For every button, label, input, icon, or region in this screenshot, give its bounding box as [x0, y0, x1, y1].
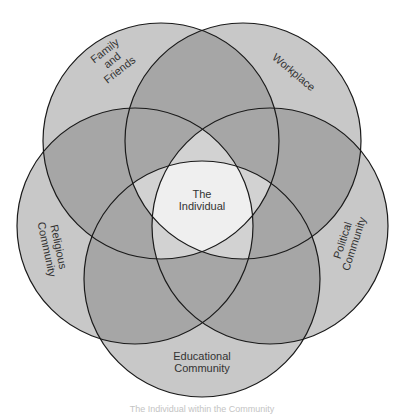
- label-center-line1: The: [162, 188, 242, 200]
- label-center-line2: Individual: [162, 200, 242, 212]
- figure-caption: The Individual within the Community: [0, 404, 404, 414]
- label-educational-line1: Educational: [162, 350, 242, 362]
- label-the-individual: The Individual: [162, 188, 242, 212]
- label-educational-line2: Community: [162, 362, 242, 374]
- label-educational-community: Educational Community: [162, 350, 242, 374]
